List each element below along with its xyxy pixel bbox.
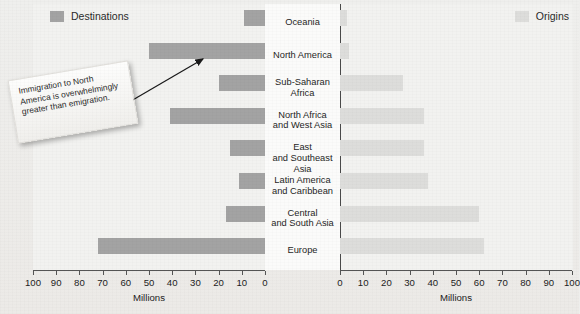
legend-swatch-origins	[515, 11, 529, 22]
axis-tick-label: 90	[51, 277, 62, 288]
bar-origins	[340, 206, 479, 222]
bar-origins	[340, 173, 428, 189]
axis-tick	[33, 271, 34, 275]
left-axis: 1009080706050403020100	[33, 270, 265, 279]
axis-tick	[433, 271, 434, 275]
bar-destinations	[98, 238, 265, 254]
axis-tick-label: 90	[543, 277, 554, 288]
axis-tick	[479, 271, 480, 275]
bar-origins	[340, 75, 403, 91]
legend-label-destinations: Destinations	[71, 10, 129, 22]
legend-label-origins: Origins	[536, 10, 569, 22]
axis-tick	[363, 271, 364, 275]
axis-tick-label: 60	[120, 277, 131, 288]
axis-tick-label: 50	[451, 277, 462, 288]
bar-origins	[340, 140, 424, 156]
axis-tick-label: 40	[427, 277, 438, 288]
bar-destinations	[170, 108, 265, 124]
axis-tick	[572, 271, 573, 275]
category-label: Eastand Southeast Asia	[265, 142, 340, 174]
axis-tick	[149, 271, 150, 275]
bar-origins	[340, 43, 349, 59]
bar-origins	[340, 238, 484, 254]
axis-tick	[172, 271, 173, 275]
axis-tick-label: 30	[190, 277, 201, 288]
bar-destinations	[219, 75, 265, 91]
category-label: Sub-SaharanAfrica	[265, 77, 340, 98]
axis-tick-label: 100	[564, 277, 580, 288]
category-label: Europe	[265, 245, 340, 256]
axis-tick-label: 50	[144, 277, 155, 288]
axis-tick-label: 20	[213, 277, 224, 288]
category-label: Centraland South Asia	[265, 208, 340, 229]
bar-destinations	[239, 173, 265, 189]
bar-destinations	[244, 10, 265, 26]
legend-origins: Origins	[515, 10, 569, 22]
axis-tick-label: 60	[474, 277, 485, 288]
axis-tick	[195, 271, 196, 275]
axis-tick-label: 80	[74, 277, 85, 288]
axis-tick	[386, 271, 387, 275]
legend-swatch-destinations	[50, 11, 64, 22]
right-axis-title: Millions	[440, 292, 472, 303]
category-label: Oceania	[265, 17, 340, 28]
category-label: North America	[265, 50, 340, 61]
axis-tick	[219, 271, 220, 275]
axis-tick	[340, 271, 341, 275]
axis-tick-label: 100	[25, 277, 41, 288]
axis-tick-label: 20	[381, 277, 392, 288]
axis-tick-label: 80	[520, 277, 531, 288]
left-axis-title: Millions	[133, 292, 165, 303]
bar-origins	[340, 108, 424, 124]
axis-tick-label: 10	[236, 277, 247, 288]
legend-destinations: Destinations	[50, 10, 129, 22]
axis-tick	[265, 271, 266, 275]
axis-tick	[126, 271, 127, 275]
axis-tick-label: 40	[167, 277, 178, 288]
axis-tick	[410, 271, 411, 275]
category-label-column: OceaniaNorth AmericaSub-SaharanAfricaNor…	[265, 4, 340, 270]
axis-tick-label: 0	[337, 277, 342, 288]
axis-tick-label: 70	[497, 277, 508, 288]
axis-tick-label: 0	[262, 277, 267, 288]
axis-tick	[56, 271, 57, 275]
axis-tick	[242, 271, 243, 275]
axis-tick	[502, 271, 503, 275]
axis-tick	[79, 271, 80, 275]
bar-destinations	[230, 140, 265, 156]
origins-plot-panel	[340, 4, 573, 270]
right-axis: 0102030405060708090100	[340, 270, 572, 279]
axis-tick	[526, 271, 527, 275]
axis-tick	[549, 271, 550, 275]
bar-origins	[340, 10, 347, 26]
category-label: North Africaand West Asia	[265, 110, 340, 131]
axis-tick-label: 70	[97, 277, 108, 288]
bar-destinations	[226, 206, 265, 222]
axis-tick-label: 30	[404, 277, 415, 288]
axis-tick	[103, 271, 104, 275]
axis-tick-label: 10	[358, 277, 369, 288]
axis-tick	[456, 271, 457, 275]
callout-note-text: Immigration to North America is overwhel…	[18, 69, 126, 118]
bar-destinations	[149, 43, 265, 59]
category-label: Latin Americaand Caribbean	[265, 175, 340, 196]
